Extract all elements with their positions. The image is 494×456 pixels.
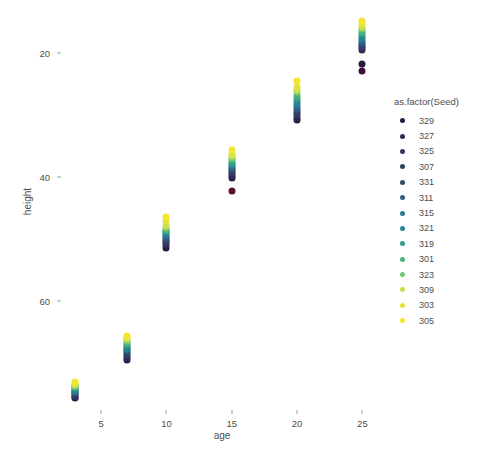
- legend-color-dot: [400, 257, 405, 262]
- y-axis-title: height: [22, 188, 33, 215]
- legend-key: [394, 287, 410, 292]
- data-point: [72, 379, 79, 386]
- y-tick-label: 60: [39, 296, 50, 307]
- legend-color-dot: [400, 318, 405, 323]
- x-tick-label: 15: [226, 418, 237, 429]
- legend-color-dot: [400, 118, 405, 123]
- legend-color-dot: [400, 195, 405, 200]
- legend-color-dot: [400, 149, 405, 154]
- y-tick-label: 20: [39, 48, 50, 59]
- legend-label: 305: [419, 316, 434, 326]
- legend-key: [394, 272, 410, 277]
- legend-item: 309: [394, 282, 490, 297]
- legend-label: 315: [419, 208, 434, 218]
- x-tick-label: 20: [292, 418, 303, 429]
- y-tick-label: 40: [39, 172, 50, 183]
- y-tick-mark: [57, 177, 61, 178]
- x-tick-mark: [362, 410, 363, 414]
- legend-item: 311: [394, 190, 490, 205]
- plot-panel: [62, 10, 382, 410]
- data-point: [124, 332, 131, 339]
- legend-item: 301: [394, 252, 490, 267]
- legend-key: [394, 257, 410, 262]
- legend-label: 325: [419, 146, 434, 156]
- legend-key: [394, 180, 410, 185]
- legend-label: 309: [419, 285, 434, 295]
- data-point: [163, 214, 170, 221]
- x-tick-label: 5: [99, 418, 104, 429]
- legend-color-dot: [400, 164, 405, 169]
- legend-key: [394, 195, 410, 200]
- legend: as.factor(Seed) 329327325307331311315321…: [394, 96, 490, 328]
- legend-item: 305: [394, 313, 490, 328]
- legend-label: 319: [419, 239, 434, 249]
- data-point: [228, 188, 235, 195]
- legend-item: 315: [394, 205, 490, 220]
- legend-key: [394, 303, 410, 308]
- x-tick-mark: [166, 410, 167, 414]
- legend-item: 303: [394, 298, 490, 313]
- legend-item: 307: [394, 159, 490, 174]
- legend-label: 331: [419, 177, 434, 187]
- legend-item: 323: [394, 267, 490, 282]
- x-tick-label: 10: [161, 418, 172, 429]
- legend-key: [394, 149, 410, 154]
- legend-label: 311: [419, 193, 433, 203]
- x-axis-title: age: [62, 430, 382, 441]
- x-tick-mark: [297, 410, 298, 414]
- y-axis: 604020: [0, 0, 50, 456]
- legend-label: 303: [419, 300, 434, 310]
- legend-color-dot: [400, 180, 405, 185]
- legend-color-dot: [400, 134, 405, 139]
- legend-label: 327: [419, 131, 434, 141]
- legend-item: 325: [394, 144, 490, 159]
- data-point: [294, 77, 301, 84]
- y-tick-mark: [57, 53, 61, 54]
- x-tick-mark: [101, 410, 102, 414]
- y-tick-mark: [57, 301, 61, 302]
- x-tick-label: 25: [357, 418, 368, 429]
- scatter-plot-figure: 604020 height age as.factor(Seed) 329327…: [0, 0, 494, 456]
- legend-color-dot: [400, 211, 405, 216]
- legend-color-dot: [400, 287, 405, 292]
- legend-label: 323: [419, 270, 434, 280]
- legend-color-dot: [400, 241, 405, 246]
- legend-color-dot: [400, 226, 405, 231]
- legend-item: 319: [394, 236, 490, 251]
- legend-item: 321: [394, 221, 490, 236]
- legend-key: [394, 226, 410, 231]
- legend-key: [394, 241, 410, 246]
- data-point: [359, 67, 366, 74]
- x-tick-mark: [231, 410, 232, 414]
- legend-title: as.factor(Seed): [394, 96, 490, 107]
- legend-key: [394, 118, 410, 123]
- legend-item: 327: [394, 128, 490, 143]
- legend-label: 307: [419, 162, 434, 172]
- legend-key: [394, 211, 410, 216]
- data-point: [294, 83, 301, 90]
- legend-label: 301: [419, 254, 434, 264]
- legend-color-dot: [400, 303, 405, 308]
- legend-color-dot: [400, 272, 405, 277]
- legend-label: 329: [419, 116, 434, 126]
- legend-item: 329: [394, 113, 490, 128]
- legend-items: 3293273253073313113153213193013233093033…: [394, 113, 490, 328]
- legend-item: 331: [394, 175, 490, 190]
- legend-key: [394, 318, 410, 323]
- legend-key: [394, 134, 410, 139]
- data-point: [359, 18, 366, 25]
- legend-label: 321: [419, 223, 434, 233]
- data-point: [228, 147, 235, 154]
- legend-key: [394, 164, 410, 169]
